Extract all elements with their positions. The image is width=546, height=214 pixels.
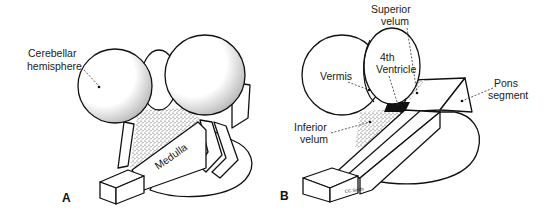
panel-letter-b: B	[280, 189, 289, 203]
label-vermis: Vermis	[320, 70, 352, 82]
panel-letter-a: A	[62, 191, 71, 205]
label-pons: Pons	[494, 77, 518, 89]
label-4th: 4th	[380, 51, 395, 63]
pointer-dot	[416, 92, 419, 95]
pointer-dot	[461, 100, 464, 103]
panel-b: Superior velum 4th Ventricle Vermis Pons…	[280, 3, 528, 203]
pointer-dot	[98, 86, 101, 89]
label-velum: velum	[300, 133, 328, 145]
cerebellum-diagram: Cerebellar hemisphere Medulla A	[0, 0, 546, 214]
label-cerebellar-hemisphere-1: Cerebellar	[28, 47, 77, 59]
cerebellar-hemisphere-right	[165, 35, 245, 115]
label-segment: segment	[488, 89, 528, 101]
pointer-dot	[368, 89, 371, 92]
label-superior-velum-2: velum	[381, 15, 409, 27]
panel-a: Cerebellar hemisphere Medulla A	[27, 35, 252, 205]
label-ventricle: Ventricle	[376, 63, 416, 75]
pointer-dot	[369, 121, 372, 124]
label-inferior: Inferior	[294, 121, 327, 133]
cerebellar-hemisphere-left	[78, 49, 152, 123]
label-superior-velum-1: Superior	[371, 3, 411, 15]
label-cerebellar-hemisphere-2: hemisphere	[27, 60, 82, 72]
